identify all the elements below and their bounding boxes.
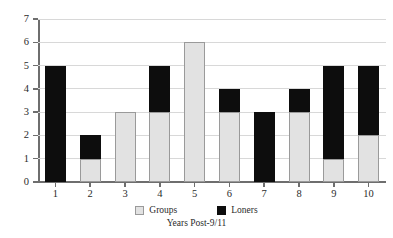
y-tick-label-2: 2: [4, 130, 29, 140]
legend-label-groups: Groups: [149, 205, 177, 215]
bar-segment-loners-8: [289, 89, 310, 112]
bar-column-4: [149, 19, 170, 182]
bar-segment-groups-2: [80, 159, 101, 182]
chart-legend: Groups Loners: [0, 205, 393, 215]
bar-column-3: [115, 19, 136, 182]
bar-chart: 01234567 12345678910 Groups Loners Years…: [0, 0, 393, 238]
bar-segment-groups-6: [219, 112, 240, 182]
x-tick-label-9: 9: [319, 188, 349, 199]
x-tick-6: [229, 182, 231, 187]
x-tick-label-10: 10: [354, 188, 384, 199]
x-tick-8: [298, 182, 300, 187]
x-tick-label-3: 3: [110, 188, 140, 199]
bar-column-1: [45, 19, 66, 182]
bar-segment-loners-2: [80, 135, 101, 158]
x-tick-1: [55, 182, 57, 187]
x-tick-4: [159, 182, 161, 187]
x-tick-3: [124, 182, 126, 187]
bar-column-8: [289, 19, 310, 182]
x-tick-10: [368, 182, 370, 187]
legend-item-loners: Loners: [217, 205, 257, 215]
legend-label-loners: Loners: [231, 205, 257, 215]
x-tick-9: [333, 182, 335, 187]
bar-segment-loners-4: [149, 66, 170, 113]
legend-item-groups: Groups: [135, 205, 177, 215]
bar-segment-groups-4: [149, 112, 170, 182]
y-tick-label-4: 4: [4, 84, 29, 94]
bar-column-10: [358, 19, 379, 182]
x-tick-2: [89, 182, 91, 187]
x-tick-label-7: 7: [249, 188, 279, 199]
bar-column-2: [80, 19, 101, 182]
x-tick-label-6: 6: [214, 188, 244, 199]
bar-column-5: [184, 19, 205, 182]
y-tick-label-6: 6: [4, 37, 29, 47]
x-tick-label-2: 2: [75, 188, 105, 199]
x-tick-7: [263, 182, 265, 187]
x-tick-label-8: 8: [284, 188, 314, 199]
bar-column-7: [254, 19, 275, 182]
x-tick-label-1: 1: [40, 188, 70, 199]
groups-swatch-icon: [135, 206, 144, 215]
x-tick-label-5: 5: [180, 188, 210, 199]
y-tick-label-1: 1: [4, 154, 29, 164]
bar-column-6: [219, 19, 240, 182]
y-tick-label-7: 7: [4, 14, 29, 24]
y-tick-label-0: 0: [4, 177, 29, 187]
x-axis-title: Years Post-9/11: [0, 218, 393, 228]
bar-segment-groups-9: [323, 159, 344, 182]
y-tick-label-3: 3: [4, 107, 29, 117]
x-tick-5: [194, 182, 196, 187]
bar-column-9: [323, 19, 344, 182]
x-tick-label-4: 4: [145, 188, 175, 199]
loners-swatch-icon: [217, 206, 226, 215]
bar-segment-groups-10: [358, 135, 379, 182]
bar-segment-groups-3: [115, 112, 136, 182]
bar-segment-groups-8: [289, 112, 310, 182]
plot-area: [38, 19, 386, 182]
bar-segment-loners-9: [323, 66, 344, 159]
bar-segment-loners-7: [254, 112, 275, 182]
y-tick-label-5: 5: [4, 61, 29, 71]
bar-segment-groups-5: [184, 42, 205, 182]
bar-segment-loners-1: [45, 66, 66, 182]
bar-segment-loners-6: [219, 89, 240, 112]
bar-segment-loners-10: [358, 66, 379, 136]
